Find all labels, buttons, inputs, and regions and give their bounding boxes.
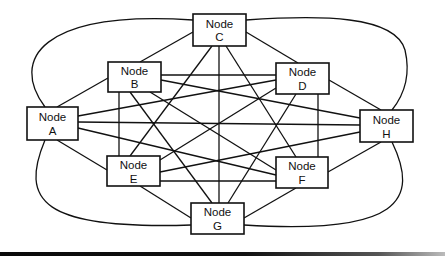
node-f-label-line2: F: [298, 174, 305, 186]
edge-h-e: [160, 132, 360, 172]
edge-h-f: [328, 142, 381, 172]
node-f-label-line1: Node: [288, 160, 316, 172]
node-d-label-line1: Node: [289, 66, 317, 78]
node-e-label-line2: E: [130, 173, 138, 185]
network-diagram: Node A Node B Node C Node D Node H Node …: [0, 0, 445, 256]
node-a-label-line2: A: [49, 125, 57, 137]
edge-a-b: [57, 78, 108, 107]
node-c[interactable]: Node C: [193, 14, 246, 46]
edge-c-d: [246, 32, 298, 63]
edge-e-g: [140, 186, 191, 218]
node-g[interactable]: Node G: [191, 203, 244, 234]
node-a[interactable]: Node A: [27, 107, 78, 140]
node-b-label-line1: Node: [121, 65, 149, 77]
node-e-label-line1: Node: [120, 159, 148, 171]
bottom-divider-bar: [0, 252, 445, 256]
node-e[interactable]: Node E: [107, 156, 160, 186]
node-g-label-line2: G: [213, 220, 222, 232]
edge-f-g: [244, 188, 296, 218]
node-h[interactable]: Node H: [360, 110, 413, 142]
node-a-label-line1: Node: [39, 111, 67, 123]
node-h-label-line2: H: [382, 128, 390, 140]
edges: [32, 18, 407, 227]
node-b-label-line2: B: [131, 78, 139, 90]
node-c-label-line1: Node: [206, 18, 234, 30]
edge-b-h: [161, 80, 360, 118]
edge-a-e: [57, 140, 107, 170]
edge-b-c: [140, 32, 193, 62]
node-g-label-line1: Node: [204, 206, 232, 218]
node-c-label-line2: C: [215, 31, 223, 43]
node-d[interactable]: Node D: [276, 63, 329, 94]
node-b[interactable]: Node B: [108, 62, 161, 92]
node-d-label-line2: D: [298, 80, 306, 92]
edge-d-h: [329, 80, 381, 110]
node-f[interactable]: Node F: [276, 157, 328, 188]
node-h-label-line1: Node: [373, 114, 401, 126]
